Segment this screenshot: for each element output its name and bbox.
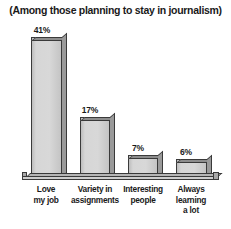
category-label-3-line-2: a lot [158,205,224,216]
axis-baseline [22,176,214,180]
bar-love-my-job[interactable] [31,37,62,177]
axis-right-cap [213,172,219,180]
plot-area: 41% Love my job 17% Variety in assignmen… [0,0,231,229]
axis-left-cap [22,172,27,177]
category-label-3: Always learning a lot [158,184,224,216]
value-label-2: 7% [118,143,158,153]
category-label-3-line-1: learning [158,195,224,206]
value-label-1: 17% [70,105,110,115]
value-label-0: 41% [22,25,62,35]
bar-chart: (Among those planning to stay in journal… [0,0,231,229]
bar-side-face [110,113,115,177]
bar-face [31,37,62,177]
bar-side-face [62,33,67,177]
bar-variety-in-assignments[interactable] [80,117,110,177]
bar-face [80,117,110,177]
category-label-3-line-0: Always [158,184,224,195]
value-label-3: 6% [166,147,206,157]
